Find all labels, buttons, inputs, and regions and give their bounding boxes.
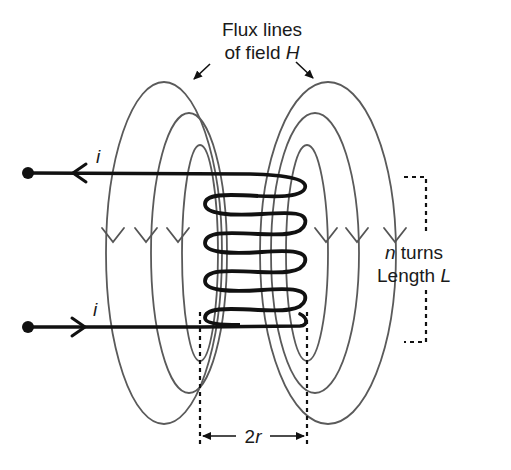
terminal-bottom — [22, 321, 34, 333]
current-label-bottom: i — [93, 299, 98, 320]
radius-symbol: r — [255, 426, 262, 447]
title-line-1: Flux lines — [222, 19, 302, 40]
solenoid-coil — [28, 173, 306, 327]
solenoid-diagram: Flux lines of field H i i — [0, 0, 511, 470]
length-bracket-top — [404, 177, 426, 234]
title-line-2: of field H — [225, 42, 300, 63]
down-arrow-icon — [135, 228, 157, 242]
pointer-arrow-left-icon — [194, 64, 210, 79]
flux-loop-left-outer — [106, 82, 222, 424]
title-line-2-prefix: of field — [225, 42, 286, 63]
flux-loop-left-middle — [151, 113, 227, 393]
length-text: Length — [377, 265, 440, 286]
terminal-top — [22, 167, 34, 179]
diameter-label: 2r — [245, 426, 263, 447]
down-arrow-icon — [315, 228, 337, 242]
flux-lines-title: Flux lines of field H — [222, 19, 302, 63]
turns-symbol: n — [385, 242, 396, 263]
length-label: Length L — [377, 265, 451, 286]
turns-text: turns — [396, 242, 444, 263]
diameter-number: 2 — [245, 426, 256, 447]
current-label-top: i — [96, 146, 101, 167]
turns-label: n turns — [385, 242, 443, 263]
field-symbol-h: H — [286, 42, 300, 63]
down-arrow-icon — [346, 228, 368, 242]
pointer-arrow-right-icon — [296, 62, 313, 78]
down-arrow-icon — [167, 228, 189, 242]
length-bracket-bottom — [404, 290, 426, 342]
length-symbol: L — [440, 265, 451, 286]
flux-loops-left — [106, 82, 227, 424]
